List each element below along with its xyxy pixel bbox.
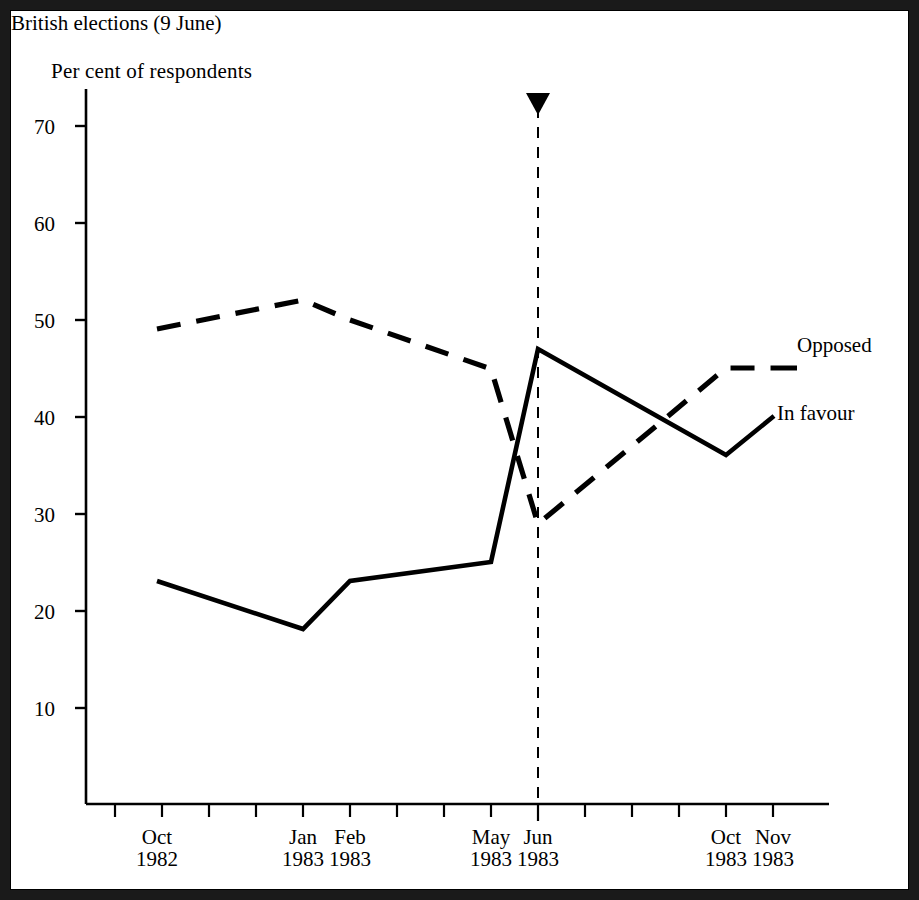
y-tick-marks: [75, 126, 86, 708]
election-arrow-marker: [526, 93, 550, 115]
x-tick-year: 1983: [736, 848, 810, 870]
x-tick-year: 1983: [313, 848, 387, 870]
x-tick-month: Feb: [313, 826, 387, 848]
y-tick-label-60: 60: [9, 212, 55, 237]
chart-canvas: [11, 11, 910, 891]
x-tick-month: Nov: [736, 826, 810, 848]
x-tick-marks: [115, 804, 773, 821]
x-tick-label-oct-1982: Oct 1982: [120, 826, 194, 871]
series-label-in-favour: In favour: [777, 401, 855, 426]
figure-inner-panel: Per cent of respondents British election…: [10, 10, 909, 890]
x-tick-year: 1982: [120, 848, 194, 870]
y-tick-label-70: 70: [9, 115, 55, 140]
y-tick-label-10: 10: [9, 697, 55, 722]
x-tick-month: Oct: [120, 826, 194, 848]
y-axis-title: Per cent of respondents: [51, 59, 252, 84]
series-label-opposed: Opposed: [797, 333, 872, 358]
y-tick-label-40: 40: [9, 406, 55, 431]
y-tick-label-50: 50: [9, 309, 55, 334]
y-tick-label-20: 20: [9, 600, 55, 625]
x-tick-year: 1983: [501, 848, 575, 870]
x-tick-label-nov-1983: Nov 1983: [736, 826, 810, 871]
x-tick-label-jun-1983: Jun 1983: [501, 826, 575, 871]
figure-frame: Per cent of respondents British election…: [0, 0, 919, 900]
y-tick-label-30: 30: [9, 503, 55, 528]
series-line-opposed: [157, 300, 774, 524]
x-tick-month: Jun: [501, 826, 575, 848]
series-line-in-favour: [157, 349, 774, 629]
x-tick-label-feb-1983: Feb 1983: [313, 826, 387, 871]
